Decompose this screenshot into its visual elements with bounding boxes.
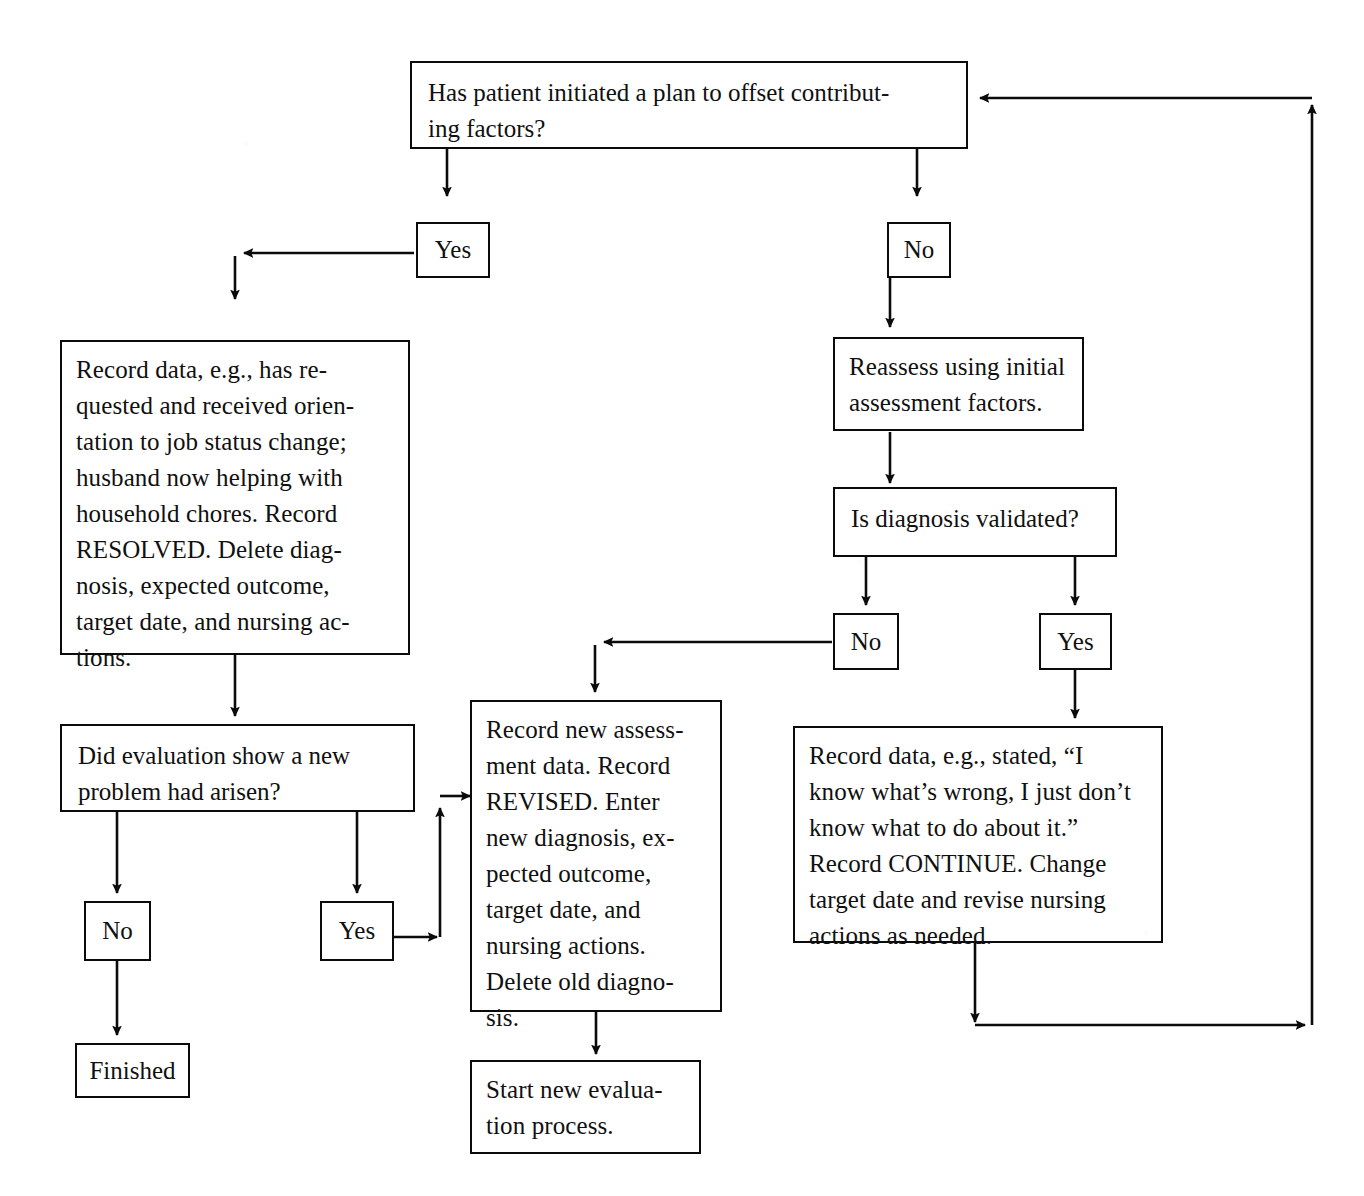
node-label: No (851, 628, 882, 656)
node-label: Record new assess- ment data. Record REV… (472, 702, 720, 1036)
node-label: Reassess using initial assessment factor… (835, 339, 1082, 421)
node-label: Yes (339, 917, 375, 945)
node-label: Start new evalua- tion process. (472, 1062, 699, 1144)
node-label: No (904, 236, 935, 264)
node-did-evaluation-show-new-problem[interactable]: Did evaluation show a new problem had ar… (60, 724, 415, 812)
node-no-bottom[interactable]: No (84, 901, 151, 961)
node-record-continue[interactable]: Record data, e.g., stated, “I know what’… (793, 726, 1163, 943)
flowchart-canvas: Has patient initiated a plan to offset c… (0, 0, 1364, 1196)
node-label: Is diagnosis validated? (835, 489, 1115, 537)
node-label: Record data, e.g., stated, “I know what’… (795, 728, 1161, 954)
node-label: Record data, e.g., has re- quested and r… (62, 342, 408, 676)
node-label: Yes (1057, 628, 1093, 656)
node-record-resolved[interactable]: Record data, e.g., has re- quested and r… (60, 340, 410, 655)
node-yes-bottom[interactable]: Yes (320, 901, 394, 961)
node-label: Has patient initiated a plan to offset c… (412, 63, 966, 147)
node-label: Yes (435, 236, 471, 264)
node-no-mid[interactable]: No (833, 613, 899, 670)
node-record-revised[interactable]: Record new assess- ment data. Record REV… (470, 700, 722, 1012)
node-reassess-initial-factors[interactable]: Reassess using initial assessment factor… (833, 337, 1084, 431)
node-is-diagnosis-validated[interactable]: Is diagnosis validated? (833, 487, 1117, 557)
node-finished[interactable]: Finished (75, 1043, 190, 1098)
node-label: Did evaluation show a new problem had ar… (62, 726, 413, 810)
node-no-top[interactable]: No (887, 222, 951, 278)
node-label: Finished (89, 1057, 175, 1085)
node-has-patient-initiated-plan[interactable]: Has patient initiated a plan to offset c… (410, 61, 968, 149)
node-yes-top[interactable]: Yes (416, 222, 490, 278)
node-yes-mid[interactable]: Yes (1039, 613, 1112, 670)
node-start-new-evaluation-process[interactable]: Start new evalua- tion process. (470, 1060, 701, 1154)
node-label: No (102, 917, 133, 945)
